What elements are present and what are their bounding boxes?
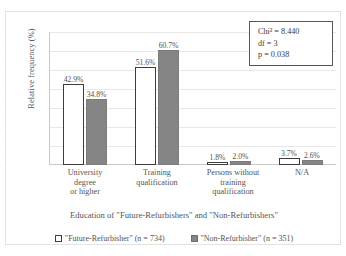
bar-series-a-na[interactable]: 3.7% [279,158,300,165]
chart-figure: Relative frequency (%) 70% 60% 50% 40% 3… [5,11,341,245]
x-category-label-na: N/A [268,168,336,178]
bar-value-label: 34.8% [87,90,107,99]
legend-label: "Future-Refurbisher" (n = 734) [65,234,165,243]
bar-series-b-na[interactable]: 2.6% [302,160,323,165]
cat-line: qualification [191,187,275,197]
x-category-label-training-qualification: Training qualification [121,168,193,187]
bar-series-a-persons-without-training[interactable]: 1.8% [207,162,228,165]
legend-item-future-refurbisher[interactable]: "Future-Refurbisher" (n = 734) [55,234,165,243]
stats-p: p = 0.038 [258,49,332,61]
bar-group-training-qualification: 51.6% 60.7% [121,32,193,165]
stats-chi2: Chi² = 8.440 [258,26,332,38]
legend-swatch-icon [55,235,62,242]
bar-value-label: 51.6% [136,58,156,67]
bar-series-a-training-qualification[interactable]: 51.6% [135,67,156,165]
cat-line: N/A [268,168,336,178]
bar-value-label: 42.9% [64,75,84,84]
bar-value-label: 3.7% [281,149,297,158]
stats-annotation-box: Chi² = 8.440 df = 3 p = 0.038 [249,21,333,66]
chart-legend: "Future-Refurbisher" (n = 734) "Non-Refu… [6,234,342,243]
y-axis-title: Relative frequency (%) [27,4,36,134]
x-category-label-persons-without-training: Persons without training qualification [191,168,275,197]
cat-line: training [191,178,275,188]
legend-item-non-refurbisher[interactable]: "Non-Refurbisher" (n = 351) [191,234,294,243]
bar-series-b-training-qualification[interactable]: 60.7% [158,50,179,165]
bar-series-b-persons-without-training[interactable]: 2.0% [230,161,251,165]
cat-line: degree [49,178,121,188]
cat-line: Persons without [191,168,275,178]
cat-line: or higher [49,187,121,197]
bar-series-a-university-degree[interactable]: 42.9% [63,84,84,166]
stats-df: df = 3 [258,38,332,50]
cat-line: University [49,168,121,178]
x-category-label-university-degree: University degree or higher [49,168,121,197]
cat-line: Training [121,168,193,178]
legend-label: "Non-Refurbisher" (n = 351) [201,234,294,243]
cropped-text-sliver [0,0,346,5]
x-axis-title: Education of "Future-Refurbishers" and "… [6,210,342,220]
bar-value-label: 2.6% [304,151,320,160]
cat-line: qualification [121,178,193,188]
bar-value-label: 1.8% [210,153,226,162]
bar-value-label: 2.0% [233,152,249,161]
bar-value-label: 60.7% [159,41,179,50]
bar-series-b-university-degree[interactable]: 34.8% [86,99,107,165]
legend-swatch-icon [191,235,198,242]
bar-group-university-degree: 42.9% 34.8% [49,32,121,165]
